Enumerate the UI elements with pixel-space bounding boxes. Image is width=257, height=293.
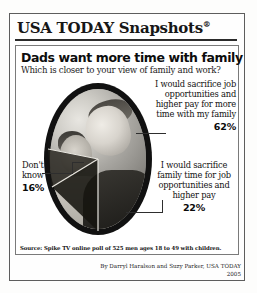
callout-family-first-value: 62% xyxy=(150,121,236,133)
callout-dont-know-value: 16% xyxy=(22,182,64,194)
callout-dont-know: Don't know 16% xyxy=(22,160,64,194)
page-title: Dads want more time with family xyxy=(21,50,243,65)
masthead-title: USA TODAY Snapshots® xyxy=(17,19,211,37)
page-subtitle: Which is closer to your view of family a… xyxy=(21,65,221,75)
pie-chart-graphic xyxy=(42,76,154,242)
snapshot-page: USA TODAY Snapshots® Dads want more time… xyxy=(0,0,257,293)
leader-line-dont-know-top xyxy=(72,162,84,163)
byline: By Darryl Haralson and Suzy Parker, USA … xyxy=(100,263,241,269)
registered-mark-icon: ® xyxy=(203,19,211,29)
callout-family-first-text: I would sacrifice job opportunities and … xyxy=(155,79,236,119)
callout-work-first-text: I would sacrifice family time for job op… xyxy=(157,160,231,200)
leader-line-family-first xyxy=(136,133,166,134)
leader-line-dont-know-vert xyxy=(72,162,73,174)
byline-year: 2005 xyxy=(227,271,241,277)
callout-work-first: I would sacrifice family time for job op… xyxy=(152,160,236,214)
callout-family-first: I would sacrifice job opportunities and … xyxy=(150,79,236,133)
callout-work-first-value: 22% xyxy=(152,202,236,214)
source-note: Source: Spike TV online poll of 525 men … xyxy=(20,245,221,251)
masthead-title-text: USA TODAY Snapshots xyxy=(17,19,203,37)
callout-dont-know-text: Don't know xyxy=(22,160,44,180)
